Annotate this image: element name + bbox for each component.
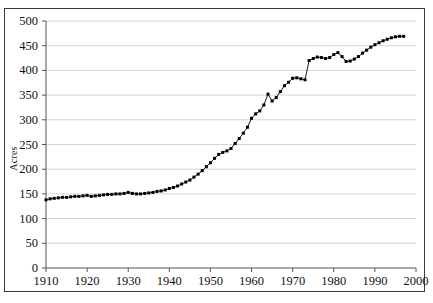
x-tick-label: 1910 <box>23 275 69 288</box>
data-points <box>45 35 406 202</box>
x-tick-label: 1950 <box>187 275 233 288</box>
x-tick-label: 1940 <box>146 275 192 288</box>
x-tick-label: 1960 <box>229 275 275 288</box>
y-tick-label: 300 <box>4 114 38 127</box>
y-tick-label: 500 <box>4 15 38 28</box>
x-tick-label: 2000 <box>393 275 433 288</box>
x-tick-label: 1980 <box>311 275 357 288</box>
x-tick-label: 1920 <box>64 275 110 288</box>
y-tick-label: 150 <box>4 188 38 201</box>
tick-marks <box>42 21 416 272</box>
y-tick-label: 350 <box>4 89 38 102</box>
y-axis-label: Acres <box>8 129 19 189</box>
y-tick-label: 250 <box>4 139 38 152</box>
y-tick-label: 50 <box>4 237 38 250</box>
x-tick-label: 1930 <box>105 275 151 288</box>
y-tick-label: 200 <box>4 163 38 176</box>
y-tick-label: 450 <box>4 40 38 53</box>
y-tick-label: 400 <box>4 64 38 77</box>
acres-line-chart <box>0 0 433 303</box>
y-tick-label: 100 <box>4 213 38 226</box>
y-tick-label: 0 <box>4 262 38 275</box>
x-tick-label: 1990 <box>352 275 398 288</box>
x-tick-label: 1970 <box>270 275 316 288</box>
